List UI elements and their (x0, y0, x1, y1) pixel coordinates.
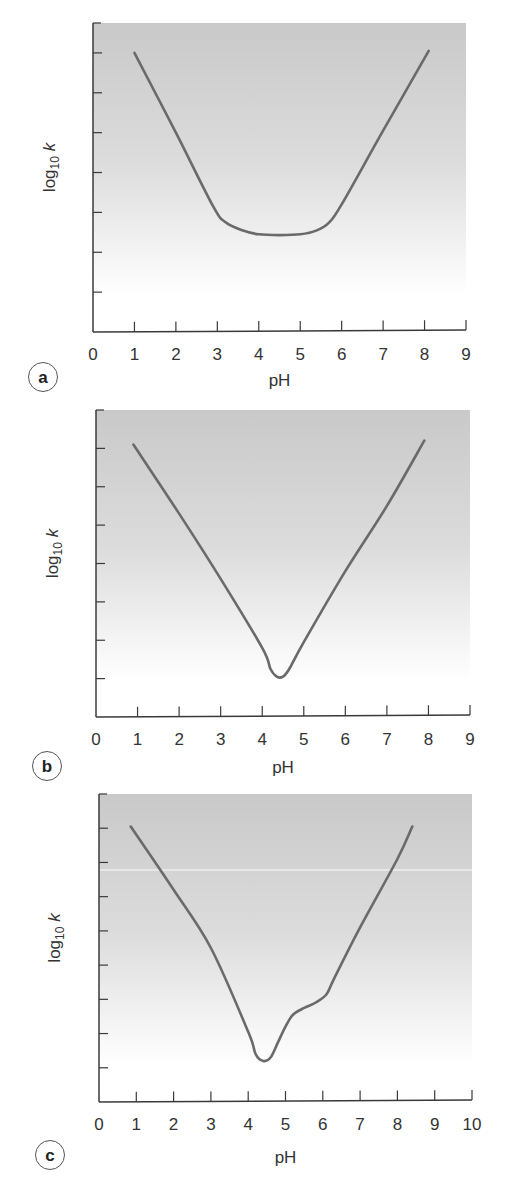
x-tick-label: 9 (465, 730, 474, 749)
chart-panel-a: 0123456789pHlog10 ka (0, 0, 514, 395)
scan-band (99, 869, 472, 871)
x-tick-label: 4 (243, 1115, 252, 1134)
x-tick-label: 8 (393, 1115, 402, 1134)
x-tick-label: 3 (213, 345, 222, 364)
y-axis-title: log10 k (43, 527, 65, 578)
x-axis-title: pH (275, 1148, 297, 1167)
x-tick-label: 3 (216, 730, 225, 749)
panel-label: c (45, 1146, 54, 1165)
x-tick-label: 4 (254, 345, 263, 364)
x-tick-label: 3 (206, 1115, 215, 1134)
panel-label: a (38, 368, 48, 387)
x-tick-label: 7 (355, 1115, 364, 1134)
x-tick-label: 1 (133, 730, 142, 749)
x-tick-label: 5 (295, 345, 304, 364)
x-tick-label: 8 (424, 730, 433, 749)
x-tick-label: 0 (91, 730, 100, 749)
x-axis-title: pH (272, 758, 294, 777)
plot-area (99, 794, 472, 1102)
x-tick-label: 0 (88, 345, 97, 364)
x-axis-title: pH (269, 371, 291, 390)
x-tick-label: 5 (281, 1115, 290, 1134)
x-tick-label: 7 (378, 345, 387, 364)
chart-panel-b: 0123456789pHlog10 kb (0, 395, 514, 785)
x-tick-label: 5 (299, 730, 308, 749)
x-tick-label: 6 (318, 1115, 327, 1134)
chart-panel-c: 012345678910pHlog10 kc (0, 785, 514, 1185)
x-tick-label: 1 (130, 345, 139, 364)
x-tick-label: 2 (169, 1115, 178, 1134)
y-axis-title: log10 k (40, 141, 62, 192)
panel-label: b (42, 757, 52, 776)
x-tick-label: 9 (461, 345, 470, 364)
chart-b-svg: 0123456789pHlog10 kb (0, 395, 514, 785)
x-tick-label: 9 (430, 1115, 439, 1134)
plot-area (93, 23, 466, 332)
x-tick-label: 2 (171, 345, 180, 364)
x-tick-label: 10 (463, 1115, 482, 1134)
chart-c-svg: 012345678910pHlog10 kc (0, 785, 514, 1185)
plot-area (96, 410, 470, 717)
x-tick-label: 7 (382, 730, 391, 749)
x-tick-label: 8 (420, 345, 429, 364)
x-tick-label: 6 (341, 730, 350, 749)
x-tick-label: 2 (174, 730, 183, 749)
x-tick-label: 6 (337, 345, 346, 364)
chart-a-svg: 0123456789pHlog10 ka (0, 0, 514, 395)
x-tick-label: 0 (94, 1115, 103, 1134)
x-tick-label: 4 (257, 730, 266, 749)
x-tick-label: 1 (132, 1115, 141, 1134)
y-axis-title: log10 k (45, 912, 67, 963)
